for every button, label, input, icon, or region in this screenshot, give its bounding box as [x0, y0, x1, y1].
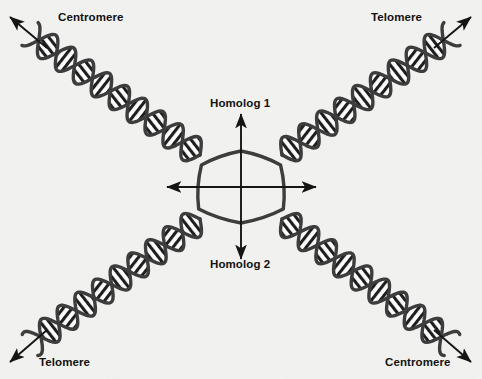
- diagram-canvas: Centromere Telomere Telomere Centromere …: [0, 0, 482, 379]
- label-centromere-top-left: Centromere: [58, 11, 124, 23]
- label-homolog-1: Homolog 1: [210, 97, 270, 109]
- label-centromere-bottom-right: Centromere: [385, 356, 451, 368]
- label-telomere-bottom-left: Telomere: [39, 356, 90, 368]
- label-telomere-top-right: Telomere: [371, 11, 422, 23]
- chiasma-illustration: [0, 0, 482, 379]
- label-homolog-2: Homolog 2: [210, 258, 270, 270]
